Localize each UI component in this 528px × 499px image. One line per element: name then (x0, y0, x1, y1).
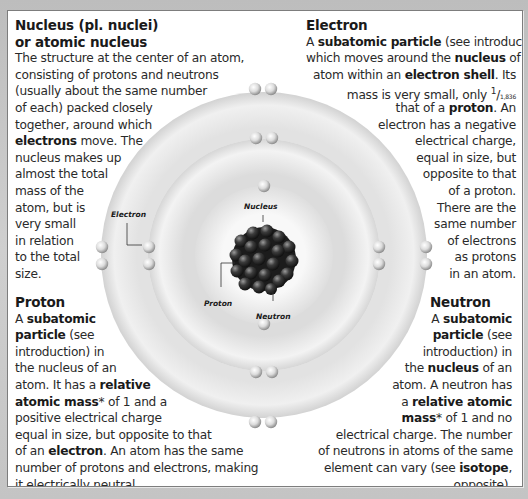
text-line: or atomic nucleus (15, 34, 244, 51)
text-line: mass is very small, only 1/1,836 (306, 83, 516, 100)
text-line: of a proton. (306, 183, 516, 200)
text-line: size. (15, 266, 244, 283)
text-line: a relative atomic (318, 394, 512, 411)
text-line: the nucleus of an (15, 360, 258, 377)
text-line: as protons (306, 249, 516, 266)
text-line: of electrons (306, 233, 516, 250)
atom-structure-panel: Nucleus Electron Proton Neutron Nucleus … (7, 10, 523, 487)
electron-definition: Electron A subatomic particle (see intro… (306, 17, 516, 283)
text-line: in relation (15, 233, 244, 250)
text-line: mass of the (15, 183, 244, 200)
electron-body: A subatomic particle (see introduction)w… (306, 34, 516, 283)
text-line: positive electrical charge (15, 410, 258, 427)
text-line: particle (see (318, 327, 512, 344)
text-line: mass* of 1 and no (318, 410, 512, 427)
proton-body: A subatomicparticle (seeintroduction) in… (15, 311, 258, 487)
nucleus-definition: Nucleus (pl. nuclei)or atomic nucleus Th… (15, 17, 244, 283)
text-line: atom. A neutron has (318, 377, 512, 394)
nucleus-body: The structure at the center of an atom,c… (15, 50, 244, 282)
text-line: atom within an electron shell. Its (306, 67, 516, 84)
proton-definition: Proton A subatomicparticle (seeintroduct… (15, 294, 258, 487)
text-line: atom. It has a relative (15, 377, 258, 394)
text-line: nucleus makes up (15, 150, 244, 167)
text-line: atom, but is (15, 200, 244, 217)
text-line: which moves around the nucleus of an (306, 50, 516, 67)
text-line: introduction) in (15, 344, 258, 361)
text-line: opposite to that (306, 166, 516, 183)
text-line: number of protons and electrons, making (15, 460, 258, 477)
text-line: Nucleus (pl. nuclei) (15, 17, 244, 34)
text-line: electrical charge. The number (318, 427, 512, 444)
text-line: of each) packed closely (15, 100, 244, 117)
text-line: (usually about the same number (15, 83, 244, 100)
text-line: opposite). (318, 477, 512, 487)
text-line: in an atom. (306, 266, 516, 283)
text-line: particle (see (15, 327, 258, 344)
nucleus-label: Nucleus (244, 202, 278, 211)
neutron-heading: Neutron (318, 294, 512, 311)
text-line: atomic mass* of 1 and a (15, 394, 258, 411)
electron-heading: Electron (306, 17, 516, 34)
text-line: equal in size, but (306, 150, 516, 167)
text-line: The structure at the center of an atom, (15, 50, 244, 67)
proton-heading: Proton (15, 294, 258, 311)
text-line: There are the (306, 200, 516, 217)
text-line: A subatomic (318, 311, 512, 328)
text-line: that of a proton. An (306, 100, 516, 117)
text-line: of neutrons in atoms of the same (318, 443, 512, 460)
text-line: of an electron. An atom has the same (15, 443, 258, 460)
text-line: introduction) in (318, 344, 512, 361)
text-line: A subatomic (15, 311, 258, 328)
text-line: element can vary (see isotope, (318, 460, 512, 477)
text-line: almost the total (15, 166, 244, 183)
text-line: electrical charge, (306, 133, 516, 150)
text-line: electrons move. The (15, 133, 244, 150)
text-line: A subatomic particle (see introduction) (306, 34, 516, 51)
text-line: the nucleus of an (318, 360, 512, 377)
text-line: it electrically neutral. (15, 477, 258, 487)
text-line: very small (15, 216, 244, 233)
text-line: consisting of protons and neutrons (15, 67, 244, 84)
neutron-label: Neutron (256, 312, 290, 321)
neutron-body: A subatomicparticle (seeintroduction) in… (318, 311, 512, 487)
text-line: equal in size, but opposite to that (15, 427, 258, 444)
neutron-definition: Neutron A subatomicparticle (seeintroduc… (318, 294, 512, 487)
text-line: together, around which (15, 117, 244, 134)
nucleus-heading: Nucleus (pl. nuclei)or atomic nucleus (15, 17, 244, 50)
text-line: to the total (15, 249, 244, 266)
text-line: electron has a negative (306, 117, 516, 134)
text-line: same number (306, 216, 516, 233)
